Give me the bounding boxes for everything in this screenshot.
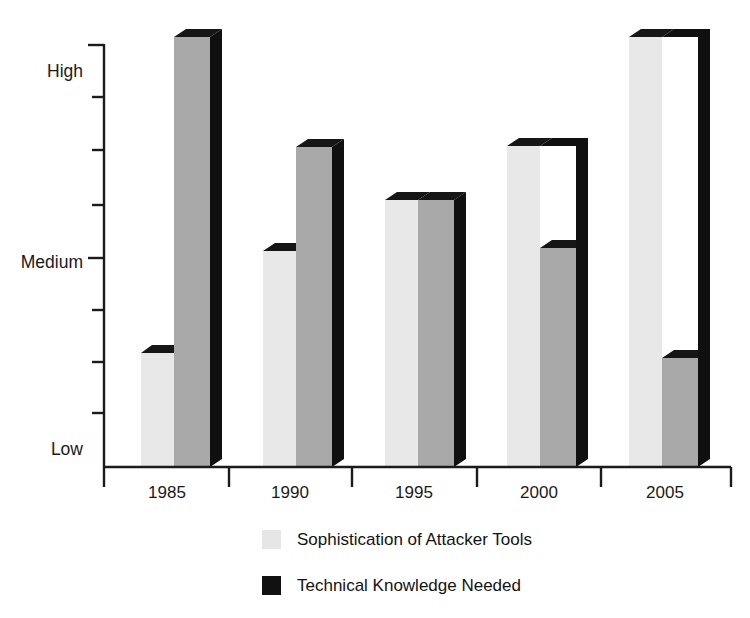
legend-item-sophistication[interactable]: Sophistication of Attacker Tools <box>262 530 532 549</box>
x-label-1990: 1990 <box>271 483 309 502</box>
bar-technical-knowledge-2005[interactable] <box>662 29 710 467</box>
chart-container: High Medium Low <box>0 0 750 618</box>
bar-technical-knowledge-1985[interactable] <box>174 29 222 467</box>
y-label-low: Low <box>51 439 83 459</box>
legend-label-sophistication: Sophistication of Attacker Tools <box>297 530 532 549</box>
legend-swatch-light-icon <box>262 530 281 549</box>
x-label-2000: 2000 <box>520 483 558 502</box>
y-axis-labels: High Medium Low <box>21 61 84 459</box>
bar-technical-knowledge-2000[interactable] <box>540 138 588 467</box>
legend-item-technical-knowledge[interactable]: Technical Knowledge Needed <box>262 576 521 595</box>
bar-technical-knowledge-1995[interactable] <box>418 192 466 467</box>
bar-group-1990 <box>263 139 344 467</box>
legend: Sophistication of Attacker Tools Technic… <box>262 530 532 595</box>
bar-group-2005 <box>629 29 710 467</box>
grouped-bar-chart: High Medium Low <box>0 0 750 618</box>
x-label-1995: 1995 <box>395 483 433 502</box>
legend-swatch-dark-icon <box>262 576 281 595</box>
y-axis-ticks <box>88 45 104 413</box>
y-label-medium: Medium <box>21 252 83 272</box>
y-axis: High Medium Low <box>21 44 104 467</box>
x-label-1985: 1985 <box>148 483 186 502</box>
y-label-high: High <box>47 61 83 81</box>
x-axis: 1985 1990 1995 2000 2005 <box>104 467 731 502</box>
x-label-2005: 2005 <box>646 483 684 502</box>
legend-label-technical-knowledge: Technical Knowledge Needed <box>297 576 521 595</box>
bar-group-1995 <box>385 192 466 467</box>
bar-group-1985 <box>141 29 222 467</box>
bar-technical-knowledge-1990[interactable] <box>296 139 344 467</box>
bar-group-2000 <box>507 138 588 467</box>
